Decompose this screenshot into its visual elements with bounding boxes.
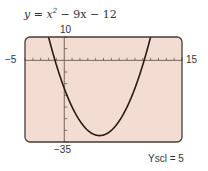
graph-window (0, 0, 208, 171)
plot-background (25, 37, 182, 142)
